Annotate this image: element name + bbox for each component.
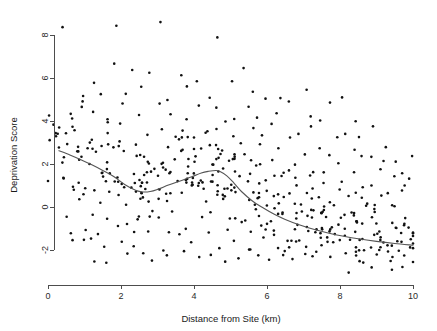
data-point [401, 172, 404, 175]
data-point [329, 256, 332, 259]
data-point [265, 190, 268, 193]
data-point [295, 217, 298, 220]
data-point [216, 184, 219, 187]
data-point [412, 247, 415, 250]
data-point [262, 236, 265, 239]
data-point [311, 216, 314, 219]
data-point [63, 156, 66, 159]
data-point [249, 230, 252, 233]
data-point [215, 128, 218, 131]
data-point [355, 220, 358, 223]
data-point [234, 170, 237, 173]
data-point [166, 254, 169, 257]
data-point [234, 217, 237, 220]
data-point [106, 168, 109, 171]
data-point [216, 190, 219, 193]
data-point [224, 195, 227, 198]
data-point [142, 196, 145, 199]
data-point [210, 254, 213, 257]
data-point [226, 187, 229, 190]
data-point [61, 26, 64, 29]
data-point [91, 214, 94, 217]
data-point [295, 184, 298, 187]
data-point [315, 251, 318, 254]
data-point [277, 213, 280, 216]
data-point [123, 186, 126, 189]
data-point [165, 192, 168, 195]
data-point [255, 164, 258, 167]
data-point [65, 216, 68, 219]
data-point [370, 266, 373, 269]
y-tick-label: 8 [40, 32, 50, 37]
data-point [288, 192, 291, 195]
data-point [354, 191, 357, 194]
data-point [78, 198, 81, 201]
data-point [118, 140, 121, 143]
data-point [183, 250, 186, 253]
data-point [306, 192, 309, 195]
data-point [233, 155, 236, 158]
data-point [217, 157, 220, 160]
data-point [181, 136, 184, 139]
data-point [242, 67, 245, 70]
data-point [286, 240, 289, 243]
data-point [306, 215, 309, 218]
data-point [389, 260, 392, 263]
data-point [322, 182, 325, 185]
data-point [294, 163, 297, 166]
data-point [48, 139, 51, 142]
data-point [106, 121, 109, 124]
data-point [311, 255, 314, 258]
data-point [162, 166, 165, 169]
data-point [257, 254, 260, 257]
data-point [211, 174, 214, 177]
data-point [178, 233, 181, 236]
data-point [184, 228, 187, 231]
data-point [412, 231, 415, 234]
data-point [361, 196, 364, 199]
data-point [256, 116, 259, 119]
x-tick-label: 6 [264, 291, 269, 301]
data-point [244, 219, 247, 222]
data-point [408, 177, 411, 180]
data-point [249, 173, 252, 176]
data-point [122, 150, 125, 153]
data-point [113, 62, 116, 65]
data-point [147, 230, 150, 233]
data-point [343, 214, 346, 217]
plot-background [0, 0, 437, 331]
data-point [231, 80, 234, 83]
data-point [347, 195, 350, 198]
data-point [409, 238, 412, 241]
data-point [329, 201, 332, 204]
data-point [277, 202, 280, 205]
data-point [371, 216, 374, 219]
data-point [350, 211, 353, 214]
data-point [77, 182, 80, 185]
data-point [193, 172, 196, 175]
data-point [336, 136, 339, 139]
data-point [157, 175, 160, 178]
data-point [294, 228, 297, 231]
data-point [396, 240, 399, 243]
data-point [375, 253, 378, 256]
data-point [202, 187, 205, 190]
data-point [54, 132, 57, 135]
data-point [391, 222, 394, 225]
data-point [187, 158, 190, 161]
data-point [106, 118, 109, 121]
data-point [355, 246, 358, 249]
y-tick-label: 2 [40, 161, 50, 166]
data-point [117, 225, 120, 228]
data-point [295, 212, 298, 215]
data-point [215, 106, 218, 109]
data-point [386, 244, 389, 247]
data-point [290, 240, 293, 243]
data-point [375, 222, 378, 225]
data-point [353, 212, 356, 215]
data-point [373, 204, 376, 207]
data-point [113, 180, 116, 183]
data-point [91, 138, 94, 141]
data-point [150, 170, 153, 173]
data-point [282, 171, 285, 174]
